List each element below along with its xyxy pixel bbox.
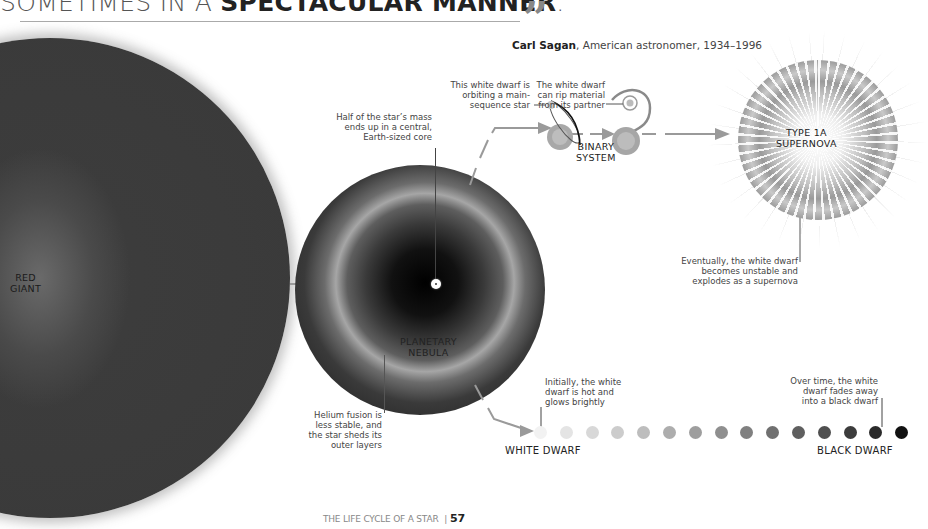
supernova-label-line: SUPERNOVA xyxy=(776,138,837,149)
annotation-line: Over time, the white xyxy=(780,376,878,386)
section-title: THE LIFE CYCLE OF A STAR xyxy=(323,514,438,524)
cooling-dot xyxy=(715,426,728,439)
cooling-dot xyxy=(663,426,676,439)
annotation-line: sequence star xyxy=(420,100,530,110)
binary-system-label: BINARY SYSTEM xyxy=(576,141,616,163)
annotation-line: into a black dwarf xyxy=(780,396,878,406)
explodes-annotation: Eventually, the white dwarf becomes unst… xyxy=(680,256,798,286)
supernova-label: TYPE 1A SUPERNOVA xyxy=(776,127,837,149)
orbiting-annotation: This white dwarf is orbiting a main- seq… xyxy=(420,80,530,110)
annotation-line: Initially, the white xyxy=(545,377,645,387)
annotation-line: explodes as a supernova xyxy=(680,276,798,286)
page-number: 57 xyxy=(450,512,465,525)
cooling-dot xyxy=(560,426,573,439)
cooling-dot xyxy=(534,426,547,439)
annotation-line: dwarf is hot and xyxy=(545,387,645,397)
footer-separator: | xyxy=(444,514,447,524)
cooling-dot xyxy=(844,426,857,439)
annotation-line: The white dwarf xyxy=(530,80,605,90)
annotation-line: dwarf fades away xyxy=(780,386,878,396)
cooling-dot xyxy=(689,426,702,439)
page-footer: THE LIFE CYCLE OF A STAR |57 xyxy=(323,512,465,525)
binary-label-line: SYSTEM xyxy=(576,152,616,163)
over-time-annotation: Over time, the white dwarf fades away in… xyxy=(780,376,878,406)
supernova-label-line: TYPE 1A xyxy=(776,127,837,138)
annotation-line: from its partner xyxy=(530,100,605,110)
cooling-dot xyxy=(586,426,599,439)
binary-label-line: BINARY xyxy=(576,141,616,152)
annotation-line: Eventually, the white dwarf xyxy=(680,256,798,266)
annotation-line: orbiting a main- xyxy=(420,90,530,100)
initially-annotation: Initially, the white dwarf is hot and gl… xyxy=(545,377,645,407)
cooling-dot xyxy=(792,426,805,439)
rip-annotation: The white dwarf can rip material from it… xyxy=(530,80,605,110)
white-dwarf-label: WHITE DWARF xyxy=(505,445,581,456)
annotation-line: can rip material xyxy=(530,90,605,100)
cooling-dot xyxy=(818,426,831,439)
annotation-line: This white dwarf is xyxy=(420,80,530,90)
black-dwarf-label: BLACK DWARF xyxy=(817,445,893,456)
annotation-line: glows brightly xyxy=(545,397,645,407)
annotation-line: becomes unstable and xyxy=(680,266,798,276)
